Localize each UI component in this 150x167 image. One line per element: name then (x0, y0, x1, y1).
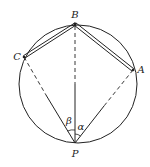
label-beta: β (66, 116, 72, 126)
label-c: C (13, 52, 21, 62)
angle-beta-arc (68, 130, 76, 131)
label-p: P (72, 149, 79, 159)
segment-ap (75, 70, 133, 143)
point-b (73, 22, 76, 25)
angle-alpha-arc (75, 134, 81, 136)
diagram-canvas (0, 0, 150, 167)
label-b: B (71, 10, 78, 20)
point-c (23, 56, 26, 59)
segment-ba (74, 23, 134, 71)
geometry-diagram: B C A P β α (0, 0, 150, 167)
point-a (132, 69, 135, 72)
label-a: A (137, 65, 144, 75)
label-alpha: α (78, 122, 85, 132)
segment-cp (24, 57, 75, 143)
segment-bc (23, 23, 76, 58)
